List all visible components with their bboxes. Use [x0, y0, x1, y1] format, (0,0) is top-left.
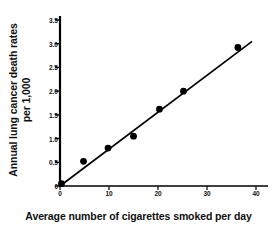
trend-line [60, 41, 252, 186]
trend-line-segment [60, 41, 252, 186]
data-point [105, 145, 112, 152]
data-point [234, 44, 241, 51]
plot-area [0, 0, 277, 233]
chart-figure: Annual lung cancer death rates per 1,000… [0, 0, 277, 233]
data-point [58, 180, 65, 187]
data-point [180, 88, 187, 95]
data-point [130, 133, 137, 140]
data-point [156, 106, 163, 113]
axes [60, 16, 268, 186]
data-points [58, 44, 241, 187]
x-axis-title: Average number of cigarettes smoked per … [0, 210, 277, 222]
data-point [80, 158, 87, 165]
